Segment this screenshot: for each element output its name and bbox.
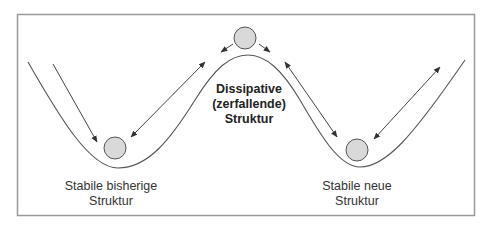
center-label-line3: Struktur — [189, 112, 309, 127]
arrow-double-right — [374, 67, 440, 139]
right-label-line1: Stabile neue — [297, 179, 417, 194]
right-label-line2: Struktur — [297, 194, 417, 209]
center-label: Dissipative (zerfallende) Struktur — [189, 82, 309, 127]
arrow-top-right — [259, 44, 270, 52]
arrow-incoming-left — [53, 64, 97, 142]
ball-left — [104, 137, 126, 159]
ball-top — [234, 27, 256, 49]
left-label-line1: Stabile bisherige — [51, 179, 171, 194]
right-label: Stabile neue Struktur — [297, 179, 417, 209]
center-label-line2: (zerfallende) — [189, 97, 309, 112]
arrow-top-left — [221, 44, 233, 52]
diagram-canvas: Dissipative (zerfallende) Struktur Stabi… — [0, 0, 494, 225]
left-label-line2: Struktur — [51, 194, 171, 209]
left-label: Stabile bisherige Struktur — [51, 179, 171, 209]
ball-right — [346, 139, 368, 161]
center-label-line1: Dissipative — [189, 82, 309, 97]
